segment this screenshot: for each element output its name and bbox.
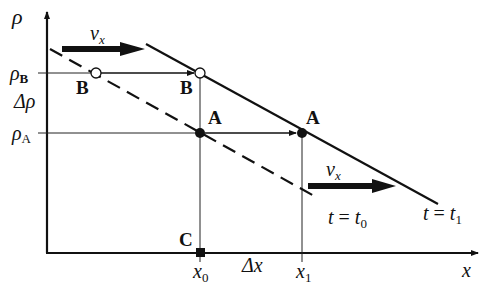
label-B-t1: B [180,77,193,98]
point-A-t0 [195,128,205,138]
curve-label-t0: t = t0 [328,206,367,231]
point-C [196,248,205,257]
curve-t1-solid [146,44,438,204]
velocity-arrow-bottom [308,179,396,193]
point-B-t0 [91,68,101,78]
label-A-t0: A [208,107,222,128]
point-B-t1 [195,68,205,78]
velocity-label-bottom: vx [326,158,341,183]
x0-label: x0 [192,260,208,285]
label-A-t1: A [306,107,320,128]
x1-label: x1 [295,260,311,285]
curve-label-t1: t = t1 [423,202,462,227]
x-axis-label: x [461,259,471,281]
rhoA-label: ρA [11,122,32,146]
label-B-t0: B [76,77,89,98]
curve-t0-dashed [50,49,316,197]
rhoB-label: ρB [9,62,29,86]
delta-rho-label: Δρ [13,90,35,113]
delta-x-label: Δx [241,254,263,276]
y-axis-label: ρ [11,4,23,29]
label-C: C [179,229,193,250]
point-A-t1 [297,128,307,138]
wave-diagram: ρ x ρB Δρ ρA B B A A C vx vx t = t0 t = … [0,0,492,288]
velocity-label-top: vx [90,22,105,47]
